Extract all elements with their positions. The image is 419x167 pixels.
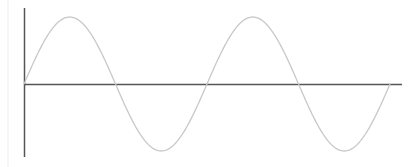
sine-chart [0,0,419,167]
